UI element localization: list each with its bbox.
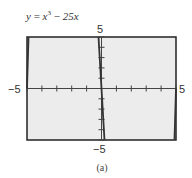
figure-caption: (a) (0, 162, 192, 173)
xmin-label: −5 (8, 84, 21, 95)
xmax-label: 5 (179, 84, 185, 95)
ymin-label: −5 (93, 144, 106, 155)
ymax-label: 5 (97, 24, 103, 35)
